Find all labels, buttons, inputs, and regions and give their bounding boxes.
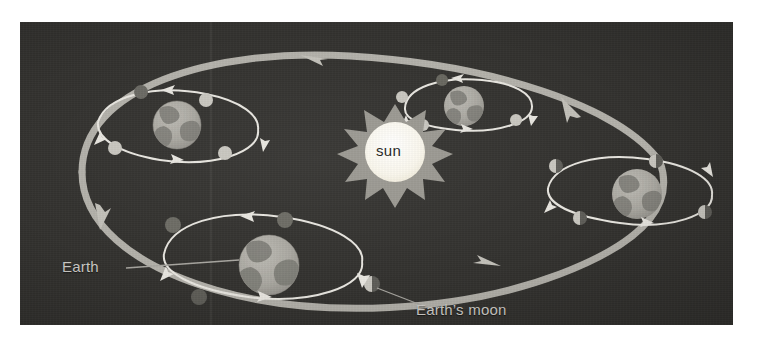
- moon-orbit-arrow: [240, 211, 255, 222]
- moon: [108, 141, 122, 155]
- earth-right: [612, 169, 662, 219]
- diagram-svg: [20, 22, 733, 325]
- diagram-panel: sun Earth Earth’s moon: [20, 22, 733, 325]
- moon-phase: [649, 154, 663, 168]
- moon-phase: [573, 211, 587, 225]
- earth-label: Earth: [62, 258, 99, 275]
- moon-phase: [549, 159, 563, 173]
- moon: [218, 146, 232, 160]
- moon: [199, 93, 213, 107]
- sun-label: sun: [376, 142, 401, 159]
- moon-orbit-arrow: [528, 114, 538, 126]
- moon: [277, 212, 293, 228]
- moon: [436, 74, 448, 86]
- orbit-arrow-bottom: [473, 255, 501, 266]
- moon: [165, 217, 181, 233]
- moon: [191, 289, 207, 305]
- moon-orbit-arrow: [701, 162, 713, 177]
- figure-stage: sun Earth Earth’s moon: [0, 0, 777, 348]
- moon: [134, 85, 148, 99]
- moon: [510, 114, 522, 126]
- earth-system-bottom-left: [160, 211, 380, 305]
- earth-top-left: [149, 101, 201, 149]
- earth-system-right: [544, 154, 713, 227]
- moon-phase: [698, 205, 712, 219]
- earth-system-top-left: [94, 85, 270, 164]
- earth-moon-label: Earth’s moon: [416, 301, 507, 318]
- earth-top-right: [444, 86, 484, 126]
- moon: [396, 91, 408, 103]
- earth-bottom-left: [237, 235, 300, 295]
- moon-orbit-arrow: [260, 138, 270, 152]
